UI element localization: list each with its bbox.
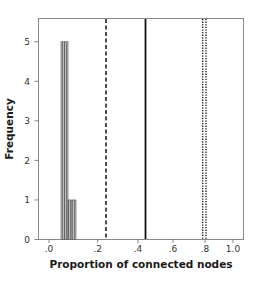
y-axis-ticks: 012345 xyxy=(24,37,38,245)
y-tick-label: 1 xyxy=(24,195,30,205)
histogram-bar xyxy=(73,200,77,240)
x-tick-label: .0 xyxy=(45,244,54,254)
x-tick-label: .4 xyxy=(134,244,143,254)
y-tick-label: 2 xyxy=(24,156,30,166)
x-tick-label: .2 xyxy=(93,244,102,254)
y-tick-label: 5 xyxy=(24,37,30,47)
y-tick-label: 3 xyxy=(24,116,30,126)
histogram-chart: .0.2.4.6.81.0 012345 Proportion of conne… xyxy=(0,0,257,283)
histogram-bar xyxy=(65,42,69,240)
y-tick-label: 4 xyxy=(24,77,30,87)
x-tick-label: .6 xyxy=(169,244,178,254)
histogram-bar xyxy=(61,42,65,240)
x-axis-ticks: .0.2.4.6.81.0 xyxy=(45,240,241,255)
y-axis-title: Frequency xyxy=(3,98,15,160)
y-tick-label: 0 xyxy=(24,235,30,245)
x-tick-label: 1.0 xyxy=(226,244,241,254)
histogram-bar xyxy=(68,200,72,240)
x-tick-label: .8 xyxy=(201,244,210,254)
x-axis-title: Proportion of connected nodes xyxy=(49,258,232,270)
